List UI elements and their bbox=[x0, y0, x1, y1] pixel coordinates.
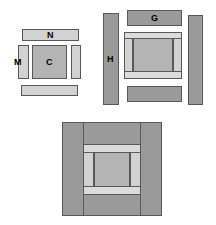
assembly-left-bar-h bbox=[62, 122, 84, 216]
assembly-inner-center-panel-c bbox=[94, 152, 130, 188]
diagram-canvas: N M C H G bbox=[0, 0, 216, 225]
part-bottom-bar-right-group bbox=[127, 86, 182, 102]
assembly-top-bar-g bbox=[83, 122, 141, 145]
assembly-inner-left-bar-m bbox=[83, 152, 94, 188]
part-right-bar-right-group bbox=[188, 15, 203, 105]
subassembly-right-bar bbox=[173, 38, 182, 72]
assembly-right-bar bbox=[140, 122, 162, 216]
assembly-bottom-bar bbox=[83, 194, 141, 216]
assembly-inner-bottom-strip-n bbox=[83, 186, 141, 195]
center-subassembly bbox=[124, 32, 182, 79]
subassembly-bottom-strip bbox=[124, 71, 182, 79]
bottom-assembled-group bbox=[62, 122, 162, 216]
label-h: H bbox=[107, 55, 114, 64]
assembly-inner-right-bar bbox=[130, 152, 141, 188]
right-exploded-group: H G bbox=[0, 0, 216, 110]
subassembly-center-panel bbox=[133, 38, 173, 72]
label-g: G bbox=[151, 14, 158, 23]
subassembly-left-bar bbox=[124, 38, 133, 72]
